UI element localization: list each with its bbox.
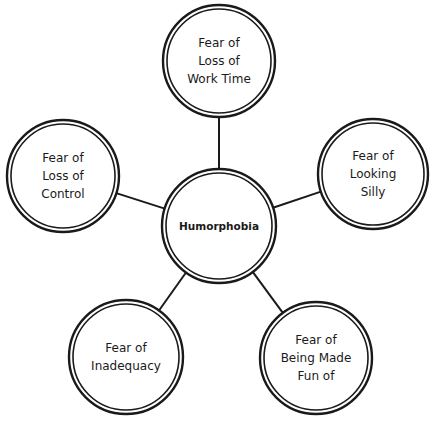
node-label-line: Fear of bbox=[352, 149, 394, 163]
humorphobia-diagram: Fear ofLoss ofWork TimeFear ofLookingSil… bbox=[0, 0, 435, 422]
node-label-line: Fear of bbox=[295, 333, 337, 347]
node-label-line: Fear of bbox=[198, 36, 240, 50]
connector-bottom-right bbox=[253, 272, 283, 313]
node-right: Fear ofLookingSilly bbox=[318, 119, 428, 229]
node-bottom-right: Fear ofBeing MadeFun of bbox=[260, 302, 372, 414]
node-label-line: Fear of bbox=[42, 151, 84, 165]
node-label-line: Silly bbox=[361, 185, 386, 199]
node-label-line: Fear of bbox=[105, 341, 147, 355]
connector-left bbox=[116, 193, 164, 209]
node-top: Fear ofLoss ofWork Time bbox=[163, 5, 275, 117]
connector-bottom-left bbox=[159, 272, 186, 310]
node-label-line: Loss of bbox=[42, 169, 84, 183]
center-node: Humorphobia bbox=[162, 169, 276, 283]
node-label-line: Loss of bbox=[198, 54, 240, 68]
node-label-line: Looking bbox=[350, 167, 397, 181]
node-label-line: Control bbox=[41, 187, 84, 201]
node-label-line: Fun of bbox=[298, 369, 336, 383]
node-outer-ring bbox=[69, 300, 183, 414]
node-left: Fear ofLoss ofControl bbox=[7, 120, 119, 232]
node-label-line: Inadequacy bbox=[91, 359, 161, 373]
node-label-line: Being Made bbox=[281, 351, 352, 365]
node-bottom-left: Fear ofInadequacy bbox=[69, 300, 183, 414]
connector-right bbox=[273, 192, 321, 208]
node-label-line: Work Time bbox=[187, 72, 251, 86]
center-label: Humorphobia bbox=[179, 220, 259, 232]
